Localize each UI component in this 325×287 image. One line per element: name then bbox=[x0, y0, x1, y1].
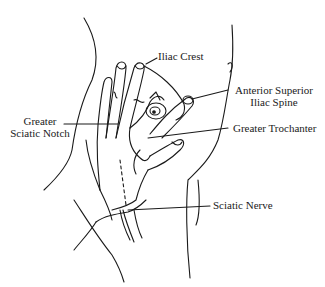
label-iliac-crest: Iliac Crest bbox=[158, 50, 204, 62]
label-asis-line2: Iliac Spine bbox=[224, 96, 324, 108]
leader-greater-trochanter bbox=[148, 128, 228, 138]
label-greater-sciatic-notch: Greater Sciatic Notch bbox=[6, 115, 74, 139]
finger-middle-nail bbox=[135, 66, 145, 69]
label-sciatic-nerve: Sciatic Nerve bbox=[213, 199, 273, 211]
body-outline-front bbox=[187, 25, 233, 278]
palm-fold-1 bbox=[129, 128, 150, 161]
leader-iliac-crest bbox=[146, 58, 157, 64]
thigh-front-lower bbox=[196, 180, 199, 225]
wrist-line bbox=[96, 200, 146, 222]
label-asis-line1: Anterior Superior bbox=[224, 84, 324, 96]
finger-pinky bbox=[97, 78, 112, 191]
palm-fold-2 bbox=[134, 150, 140, 174]
palm-right bbox=[112, 170, 148, 210]
nerve-strand-3 bbox=[134, 210, 142, 238]
leader-asis bbox=[192, 90, 228, 99]
knuckle-mark-1 bbox=[114, 92, 117, 98]
bone-tab bbox=[150, 92, 160, 100]
label-greater-trochanter: Greater Trochanter bbox=[233, 122, 316, 134]
leader-sciatic-nerve bbox=[128, 206, 210, 210]
finger-ring-nail bbox=[117, 66, 126, 69]
acetabulum-outer bbox=[146, 103, 166, 119]
finger-middle bbox=[116, 63, 144, 138]
label-anterior-superior-iliac-spine: Anterior Superior Iliac Spine bbox=[224, 84, 324, 108]
body-outline-back bbox=[44, 18, 96, 190]
label-gsn-line2: Sciatic Notch bbox=[6, 127, 74, 139]
hip-palpation-drawing bbox=[0, 0, 325, 287]
forearm-left bbox=[74, 222, 96, 250]
wrist-dashed bbox=[120, 160, 126, 205]
finger-ring bbox=[106, 62, 126, 138]
label-gsn-line1: Greater bbox=[6, 115, 74, 127]
knuckle-mark-2 bbox=[134, 100, 144, 103]
anatomy-diagram: Iliac Crest Anterior Superior Iliac Spin… bbox=[0, 0, 325, 287]
thumb bbox=[148, 140, 184, 170]
femoral-head-dot bbox=[153, 111, 156, 114]
nerve-strand-1 bbox=[120, 210, 130, 240]
